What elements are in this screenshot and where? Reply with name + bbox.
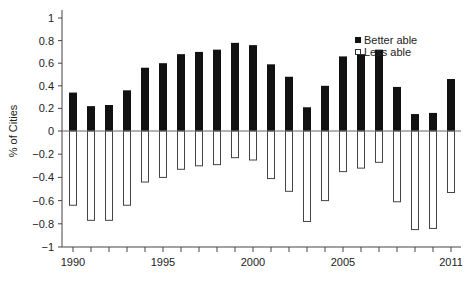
bar-less-able — [322, 131, 329, 201]
y-tick-label: −0.2 — [32, 148, 54, 160]
bar-less-able — [268, 131, 275, 179]
bar-less-able — [106, 131, 113, 220]
y-tick-label: −0.4 — [32, 171, 54, 183]
legend-label-better-able: Better able — [364, 34, 417, 46]
bar-less-able — [232, 131, 239, 158]
bar-less-able — [412, 131, 419, 230]
bar-better-able — [105, 105, 113, 131]
y-tick-label: −0.8 — [32, 218, 54, 230]
legend-label-less-able: Less able — [364, 46, 411, 58]
y-tick-label: 0.4 — [39, 80, 54, 92]
bar-better-able — [411, 114, 419, 131]
y-axis-title: % of Cities — [7, 104, 19, 157]
bar-better-able — [357, 54, 365, 131]
legend-swatch-better-able — [355, 37, 361, 43]
y-tick-label: 0.8 — [39, 35, 54, 47]
bar-better-able — [375, 50, 383, 131]
bar-less-able — [394, 131, 401, 202]
bar-better-able — [177, 54, 185, 131]
bar-less-able — [304, 131, 311, 221]
bar-less-able — [214, 131, 221, 165]
bar-less-able — [376, 131, 383, 162]
bars-group — [69, 43, 455, 230]
y-axis-ticks: 10.80.60.40.20−0.2−0.4−0.6−0.8−1 — [32, 12, 62, 253]
bar-chart: 10.80.60.40.20−0.2−0.4−0.6−0.8−1 1990199… — [0, 0, 471, 281]
bar-less-able — [124, 131, 131, 205]
bar-better-able — [447, 79, 455, 131]
bar-less-able — [196, 131, 203, 166]
x-tick-label: 2005 — [331, 256, 355, 268]
x-tick-label: 2011 — [439, 256, 463, 268]
bar-less-able — [70, 131, 77, 205]
x-tick-label: 1995 — [151, 256, 175, 268]
bar-better-able — [123, 90, 131, 131]
bar-better-able — [429, 113, 437, 131]
bar-better-able — [231, 43, 239, 131]
bar-better-able — [321, 86, 329, 131]
chart-canvas: 10.80.60.40.20−0.2−0.4−0.6−0.8−1 1990199… — [0, 0, 471, 281]
bar-less-able — [142, 131, 149, 182]
legend-swatch-less-able — [356, 50, 361, 55]
y-tick-label: −1 — [41, 241, 54, 253]
bar-better-able — [159, 63, 167, 131]
bar-less-able — [88, 131, 95, 220]
bar-less-able — [448, 131, 455, 192]
bar-better-able — [303, 107, 311, 131]
bar-less-able — [160, 131, 167, 177]
bar-better-able — [393, 87, 401, 131]
bar-better-able — [87, 106, 95, 131]
bar-less-able — [178, 131, 185, 169]
bar-less-able — [430, 131, 437, 228]
bar-less-able — [358, 131, 365, 168]
y-tick-label: 1 — [48, 12, 54, 24]
bar-better-able — [195, 52, 203, 131]
y-tick-label: −0.6 — [32, 195, 54, 207]
bar-less-able — [250, 131, 257, 160]
y-tick-label: 0.2 — [39, 102, 54, 114]
x-axis-ticks: 19901995200020052011 — [61, 247, 463, 268]
y-tick-label: 0 — [48, 125, 54, 137]
bar-better-able — [267, 64, 275, 131]
bar-better-able — [249, 45, 257, 131]
legend: Better able Less able — [355, 34, 417, 58]
bar-less-able — [286, 131, 293, 191]
x-tick-label: 2000 — [241, 256, 265, 268]
bar-better-able — [339, 56, 347, 131]
bar-less-able — [340, 131, 347, 172]
x-tick-label: 1990 — [61, 256, 85, 268]
bar-better-able — [213, 50, 221, 131]
bar-better-able — [285, 77, 293, 131]
bar-better-able — [141, 68, 149, 131]
bar-better-able — [69, 93, 77, 131]
y-tick-label: 0.6 — [39, 57, 54, 69]
